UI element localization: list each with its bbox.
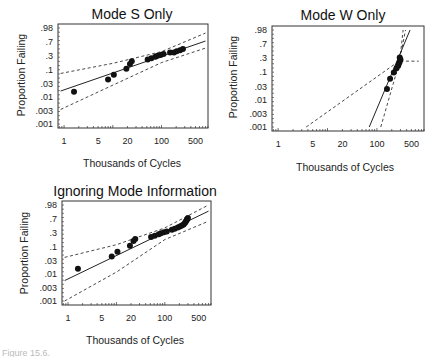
y-tick-label: .3 [259, 53, 267, 63]
x-tick-label: 5 [310, 139, 315, 149]
plot-frame [272, 26, 424, 131]
y-tick-label: .03 [254, 82, 267, 92]
lower-confidence-band [61, 48, 206, 109]
chart-title: Mode S Only [92, 6, 173, 22]
y-tick-label: .7 [45, 37, 53, 47]
y-tick-label: .98 [40, 23, 53, 33]
x-tick-label: 1 [276, 139, 281, 149]
y-tick-label: .98 [254, 25, 267, 35]
x-tick-label: 500 [188, 136, 203, 146]
x-axis-label: Thousands of Cycles [86, 334, 184, 346]
y-axis-label: Proportion Failing [227, 36, 239, 118]
y-tick-label: .001 [39, 296, 57, 306]
y-tick-label: .003 [39, 283, 57, 293]
y-tick-label: .7 [259, 39, 267, 49]
upper-confidence-band [65, 205, 209, 257]
x-tick-label: 20 [126, 313, 136, 323]
lower-confidence-band [65, 221, 209, 301]
y-tick-label: .03 [40, 79, 53, 89]
y-tick-label: .003 [249, 109, 267, 119]
panel-ignoring-mode-information: Ignoring Mode Information Proportion Fai… [18, 183, 217, 346]
chart-title: Mode W Only [301, 7, 386, 23]
data-point [132, 236, 138, 242]
y-tick-label: .003 [35, 106, 53, 116]
x-tick-label: 100 [157, 313, 172, 323]
x-tick-label: 1 [62, 136, 67, 146]
x-tick-label: 5 [99, 313, 104, 323]
lower-confidence-band [381, 30, 406, 127]
chart-title: Ignoring Mode Information [53, 183, 216, 199]
x-tick-label: 100 [369, 139, 384, 149]
data-point [105, 77, 111, 83]
y-tick-label: .3 [49, 228, 57, 238]
y-tick-label: .01 [40, 92, 53, 102]
y-tick-label: .03 [44, 256, 57, 266]
x-axis-label: Thousands of Cycles [83, 157, 181, 169]
y-tick-label: .001 [35, 119, 53, 129]
panel-mode-w-only: Mode W Only Proportion Failing Thousands… [227, 7, 424, 173]
data-point [161, 51, 167, 57]
y-tick-label: .7 [49, 214, 57, 224]
panel-mode-s-only: Mode S Only Proportion Failing Thousands… [15, 6, 208, 169]
plot-area: 1520100500.98.7.3.1.03.01.003.001 [35, 23, 208, 146]
x-tick-label: 100 [154, 136, 169, 146]
plot-area: 1520100500.98.7.3.1.03.01.003.001 [249, 25, 424, 149]
y-tick-label: .01 [44, 269, 57, 279]
y-tick-label: .001 [249, 122, 267, 132]
y-tick-label: .3 [45, 51, 53, 61]
plot-area: 1520100500.98.7.3.1.03.01.003.001 [39, 200, 211, 323]
y-tick-label: .01 [254, 95, 267, 105]
y-tick-label: .98 [44, 200, 57, 210]
data-point [109, 254, 115, 260]
x-tick-label: 20 [122, 136, 132, 146]
x-axis-label: Thousands of Cycles [296, 161, 394, 173]
data-point [164, 228, 170, 234]
data-point [111, 72, 117, 78]
data-point [185, 215, 191, 221]
y-axis-label: Proportion Failing [18, 212, 30, 294]
data-point [180, 46, 186, 52]
x-tick-label: 1 [66, 313, 71, 323]
y-tick-label: .1 [259, 67, 267, 77]
x-tick-label: 500 [404, 139, 419, 149]
data-point [75, 266, 81, 272]
x-tick-label: 20 [337, 139, 347, 149]
data-point [71, 89, 77, 95]
data-point [129, 58, 135, 64]
y-tick-label: .1 [45, 65, 53, 75]
y-axis-label: Proportion Failing [15, 34, 27, 116]
data-point [397, 55, 403, 61]
figure: Mode S Only Proportion Failing Thousands… [0, 0, 439, 357]
figure-caption: Figure 15.6. [2, 348, 50, 357]
x-tick-label: 500 [191, 313, 206, 323]
upper-confidence-band [61, 33, 206, 73]
data-point [384, 86, 390, 92]
x-tick-label: 5 [96, 136, 101, 146]
data-point [114, 249, 120, 255]
y-tick-label: .1 [49, 242, 57, 252]
data-point [387, 76, 393, 82]
